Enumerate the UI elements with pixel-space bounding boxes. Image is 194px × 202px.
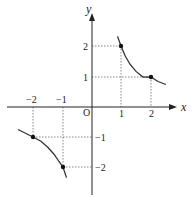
y-tick-label-m1: −1: [95, 132, 106, 143]
point-2-1: [149, 75, 153, 79]
y-axis-label: y: [85, 2, 92, 16]
x-axis-label: x: [180, 100, 187, 114]
point-1-2: [119, 44, 123, 48]
x-tick-label-m1: −1: [56, 94, 67, 105]
y-tick-label-m2: −2: [95, 162, 106, 173]
origin-label: O: [83, 107, 90, 118]
y-tick-label-2: 2: [83, 41, 88, 52]
x-tick-label-1: 1: [119, 108, 124, 119]
x-tick-label-2: 2: [149, 108, 154, 119]
x-axis-arrow-icon: [169, 104, 177, 110]
y-tick-label-1: 1: [83, 72, 88, 83]
point-m2-m1: [31, 135, 35, 139]
point-m1-m2: [61, 165, 65, 169]
x-tick-label-m2: −2: [26, 94, 37, 105]
graph-canvas: x y O −2 −1 1 2 2 1 −1 −2: [0, 0, 194, 202]
curve-positive-branch: [118, 36, 167, 84]
